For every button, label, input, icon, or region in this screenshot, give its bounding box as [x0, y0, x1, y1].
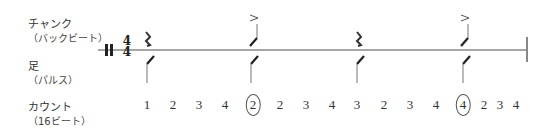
accent-icon — [461, 15, 469, 21]
count-item: 4 — [513, 97, 520, 113]
foot-slash-icon — [463, 56, 470, 83]
rhythm-staff — [0, 0, 559, 137]
foot-slash-icon — [147, 56, 154, 83]
rest-icon — [357, 32, 361, 46]
count-item: 3 — [354, 97, 361, 113]
start-bar-icon — [105, 44, 108, 56]
count-item: 1 — [144, 97, 151, 113]
foot-slash-icon — [357, 56, 364, 83]
count-item-circled: 2 — [246, 94, 261, 116]
count-item: 4 — [222, 97, 229, 113]
chunk-slash-icon — [250, 38, 257, 46]
count-item: 4 — [433, 97, 440, 113]
count-item: 4 — [329, 97, 336, 113]
count-item: 3 — [497, 97, 504, 113]
time-signature-bottom: 4 — [121, 47, 133, 58]
accent-icon — [250, 15, 258, 21]
count-item: 2 — [170, 97, 177, 113]
count-item: 2 — [277, 97, 284, 113]
count-item: 3 — [407, 97, 414, 113]
chunk-slash-icon — [461, 38, 468, 46]
count-item: 3 — [196, 97, 203, 113]
rest-icon — [146, 32, 150, 46]
count-item-circled: 4 — [456, 94, 471, 116]
time-signature: 4 4 — [121, 36, 133, 58]
count-item: 2 — [481, 97, 488, 113]
count-item: 3 — [303, 97, 310, 113]
foot-slash-icon — [251, 56, 258, 83]
count-item: 2 — [381, 97, 388, 113]
